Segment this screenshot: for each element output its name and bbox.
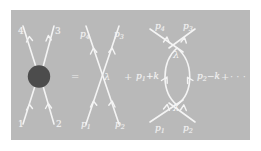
- tree-label-p3-sub: 3: [120, 33, 124, 41]
- tree-diagram-group: [86, 26, 119, 124]
- loop-label-internal-right-suffix: −k: [207, 71, 220, 81]
- loop-label-p1: p1: [155, 124, 165, 134]
- blob-label-leg-3: 3: [55, 27, 61, 36]
- tree-label-p1: p1: [81, 120, 91, 130]
- blob-diagram-group: [23, 26, 54, 124]
- loop-label-internal-right: p2−k: [197, 72, 220, 82]
- plus-sign-first: +: [124, 72, 132, 82]
- blob-arrow-lower-left: [27, 105, 33, 111]
- blob-leg-lower-right: [43, 86, 54, 124]
- tree-label-p1-sub: 1: [87, 123, 91, 131]
- loop-label-p4-sub: 4: [161, 25, 165, 33]
- loop-label-p3: p3: [183, 22, 193, 32]
- loop-vertex-lambda-top: λ: [173, 50, 179, 60]
- loop-label-p2-sub: 2: [189, 127, 193, 135]
- tree-label-p2: p2: [115, 120, 125, 130]
- blob-leg-upper-left: [23, 26, 36, 67]
- loop-arrow-lower-right: [181, 105, 187, 111]
- tree-label-p4: p4: [80, 30, 90, 40]
- loop-label-p1-sub: 1: [161, 127, 165, 135]
- loop-label-p4: p4: [155, 22, 165, 32]
- blob-label-leg-4: 4: [18, 27, 24, 36]
- tree-label-p2-sub: 2: [121, 123, 125, 131]
- loop-vertex-lambda-bottom: λ: [173, 103, 179, 113]
- tree-label-p3: p3: [114, 30, 124, 40]
- diagram-panel: .leg { stroke: #f4f4f4; stroke-width: 1.…: [11, 10, 250, 140]
- figure-root: .leg { stroke: #f4f4f4; stroke-width: 1.…: [0, 0, 261, 151]
- blob-label-leg-2: 2: [56, 120, 62, 129]
- loop-label-internal-left-suffix: +k: [146, 71, 159, 81]
- loop-label-p2: p2: [183, 124, 193, 134]
- plus-sign-second: +: [221, 72, 229, 82]
- loop-label-p3-sub: 3: [189, 25, 193, 33]
- tree-arrow-lower-left: [91, 101, 97, 107]
- blob-label-leg-1: 1: [18, 120, 24, 129]
- blob-leg-upper-right: [43, 26, 54, 67]
- ellipsis: · · ·: [230, 72, 246, 82]
- interaction-blob: [28, 65, 50, 87]
- loop-arrow-lower-left: [164, 105, 170, 111]
- tree-vertex-lambda: λ: [104, 72, 110, 82]
- tree-label-p4-sub: 4: [86, 33, 90, 41]
- loop-label-internal-left: p1+k: [136, 72, 159, 82]
- equals-sign: =: [71, 72, 79, 82]
